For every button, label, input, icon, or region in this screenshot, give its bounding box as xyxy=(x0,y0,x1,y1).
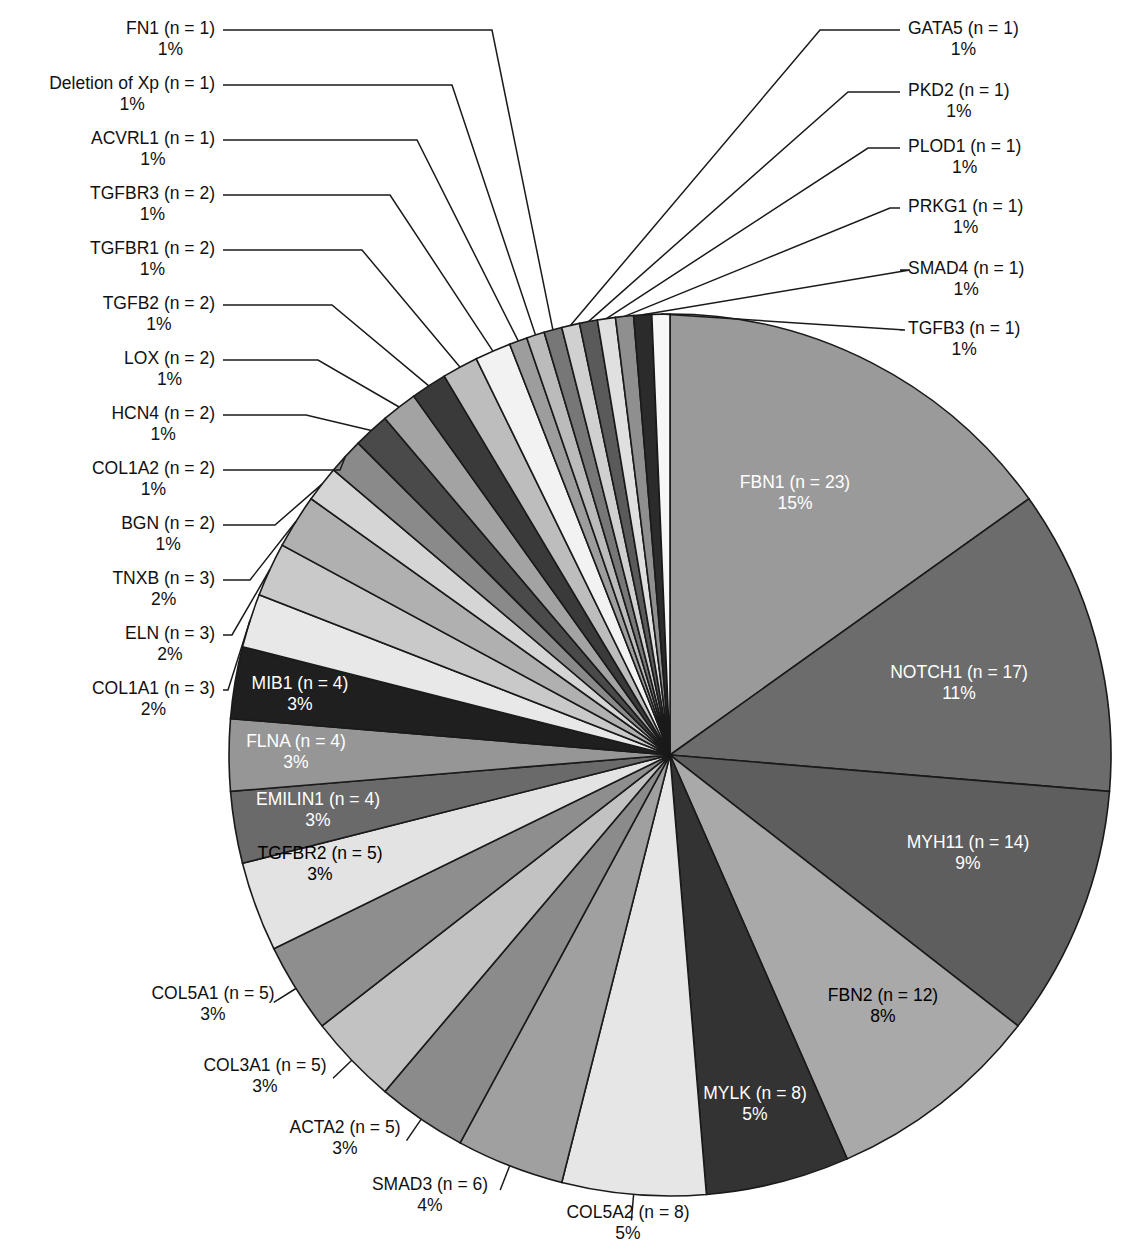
pie-label-name: EMILIN1 (n = 4) xyxy=(256,789,380,810)
pie-label-name: ACVRL1 (n = 1) xyxy=(91,128,215,149)
pie-label-name: Deletion of Xp (n = 1) xyxy=(49,73,215,94)
pie-label-name: ELN (n = 3) xyxy=(125,623,215,644)
pie-label-name: HCN4 (n = 2) xyxy=(111,403,215,424)
pie-outer-label: Deletion of Xp (n = 1)1% xyxy=(49,73,215,115)
pie-label-name: ACTA2 (n = 5) xyxy=(289,1117,400,1138)
pie-label-name: FBN1 (n = 23) xyxy=(740,472,850,493)
pie-label-percent: 1% xyxy=(90,204,215,225)
pie-label-name: GATA5 (n = 1) xyxy=(908,18,1019,39)
pie-label-name: COL3A1 (n = 5) xyxy=(203,1055,326,1076)
leader-line xyxy=(223,30,553,330)
pie-outer-label: PLOD1 (n = 1)1% xyxy=(908,136,1021,178)
pie-label-name: MIB1 (n = 4) xyxy=(252,673,349,694)
pie-outer-label: COL1A1 (n = 3)2% xyxy=(92,678,215,720)
pie-label-percent: 3% xyxy=(203,1076,326,1097)
pie-label-percent: 1% xyxy=(126,39,215,60)
pie-label-name: TNXB (n = 3) xyxy=(112,568,215,589)
pie-outer-label: TNXB (n = 3)2% xyxy=(112,568,215,610)
pie-label-name: PLOD1 (n = 1) xyxy=(908,136,1021,157)
pie-label-percent: 3% xyxy=(252,694,349,715)
pie-label-percent: 3% xyxy=(256,810,380,831)
pie-label-name: TGFBR3 (n = 2) xyxy=(90,183,215,204)
pie-inner-label: MYLK (n = 8)5% xyxy=(703,1083,807,1125)
pie-label-percent: 1% xyxy=(111,424,215,445)
pie-label-percent: 3% xyxy=(289,1138,400,1159)
pie-label-percent: 1% xyxy=(90,259,215,280)
pie-outer-label: HCN4 (n = 2)1% xyxy=(111,403,215,445)
leader-line xyxy=(223,140,518,341)
leader-line xyxy=(571,30,900,325)
pie-outer-label: COL5A2 (n = 8)5% xyxy=(566,1202,689,1244)
pie-label-percent: 2% xyxy=(125,644,215,665)
pie-label-name: COL1A2 (n = 2) xyxy=(92,458,215,479)
pie-label-percent: 1% xyxy=(908,279,1024,300)
pie-label-percent: 3% xyxy=(258,864,383,885)
leader-line xyxy=(500,1166,510,1190)
leader-line xyxy=(223,415,371,431)
pie-label-percent: 9% xyxy=(907,853,1030,874)
pie-label-name: FBN2 (n = 12) xyxy=(828,985,938,1006)
pie-outer-label: GATA5 (n = 1)1% xyxy=(908,18,1019,60)
pie-chart-figure: FN1 (n = 1)1%Deletion of Xp (n = 1)1%ACV… xyxy=(0,0,1124,1258)
pie-label-percent: 1% xyxy=(91,149,215,170)
pie-wedge-group xyxy=(229,314,1111,1196)
pie-label-name: TGFBR1 (n = 2) xyxy=(90,238,215,259)
pie-label-name: LOX (n = 2) xyxy=(124,348,215,369)
pie-label-percent: 5% xyxy=(566,1223,689,1244)
pie-outer-label: COL3A1 (n = 5)3% xyxy=(203,1055,326,1097)
pie-label-percent: 4% xyxy=(372,1195,488,1216)
pie-label-name: MYLK (n = 8) xyxy=(703,1083,807,1104)
pie-label-percent: 11% xyxy=(890,683,1028,704)
pie-outer-label: TGFB2 (n = 2)1% xyxy=(103,293,215,335)
leader-line xyxy=(223,195,493,351)
pie-label-name: MYH11 (n = 14) xyxy=(907,832,1030,853)
pie-outer-label: ELN (n = 3)2% xyxy=(125,623,215,665)
pie-outer-label: PKD2 (n = 1)1% xyxy=(908,80,1010,122)
pie-label-percent: 3% xyxy=(246,752,346,773)
pie-label-name: NOTCH1 (n = 17) xyxy=(890,662,1028,683)
pie-label-name: TGFBR2 (n = 5) xyxy=(258,843,383,864)
leader-line xyxy=(223,305,429,386)
pie-label-name: SMAD4 (n = 1) xyxy=(908,258,1024,279)
pie-outer-label: TGFB3 (n = 1)1% xyxy=(908,318,1020,360)
pie-label-percent: 1% xyxy=(908,39,1019,60)
pie-label-percent: 1% xyxy=(103,314,215,335)
pie-outer-label: TGFBR1 (n = 2)1% xyxy=(90,238,215,280)
pie-label-name: SMAD3 (n = 6) xyxy=(372,1174,488,1195)
pie-label-percent: 2% xyxy=(92,699,215,720)
leader-line xyxy=(223,360,399,407)
pie-label-name: COL5A1 (n = 5) xyxy=(151,983,274,1004)
pie-label-percent: 3% xyxy=(151,1004,274,1025)
pie-inner-label: EMILIN1 (n = 4)3% xyxy=(256,789,380,831)
leader-line xyxy=(625,208,901,316)
pie-label-name: COL5A2 (n = 8) xyxy=(566,1202,689,1223)
leader-line xyxy=(606,148,900,319)
pie-label-name: PRKG1 (n = 1) xyxy=(908,196,1023,217)
leader-line xyxy=(223,250,460,367)
pie-outer-label: SMAD4 (n = 1)1% xyxy=(908,258,1024,300)
pie-label-name: PKD2 (n = 1) xyxy=(908,80,1010,101)
pie-label-name: COL1A1 (n = 3) xyxy=(92,678,215,699)
pie-inner-label: NOTCH1 (n = 17)11% xyxy=(890,662,1028,704)
pie-outer-label: ACTA2 (n = 5)3% xyxy=(289,1117,400,1159)
pie-inner-label: MYH11 (n = 14)9% xyxy=(907,832,1030,874)
pie-outer-label: LOX (n = 2)1% xyxy=(124,348,215,390)
pie-inner-label: FLNA (n = 4)3% xyxy=(246,731,346,773)
leader-line xyxy=(274,989,296,1003)
leader-line xyxy=(588,92,900,322)
pie-label-percent: 1% xyxy=(908,339,1020,360)
pie-label-percent: 5% xyxy=(703,1104,807,1125)
pie-outer-label: ACVRL1 (n = 1)1% xyxy=(91,128,215,170)
pie-outer-label: COL1A2 (n = 2)1% xyxy=(92,458,215,500)
pie-label-percent: 2% xyxy=(112,589,215,610)
pie-outer-label: TGFBR3 (n = 2)1% xyxy=(90,183,215,225)
pie-inner-label: FBN1 (n = 23)15% xyxy=(740,472,850,514)
pie-inner-label: TGFBR2 (n = 5)3% xyxy=(258,843,383,885)
pie-label-percent: 15% xyxy=(740,493,850,514)
pie-inner-label: MIB1 (n = 4)3% xyxy=(252,673,349,715)
leader-line xyxy=(223,85,536,335)
pie-label-percent: 8% xyxy=(828,1006,938,1027)
leader-line xyxy=(223,456,346,470)
pie-label-name: FLNA (n = 4) xyxy=(246,731,346,752)
pie-label-percent: 1% xyxy=(124,369,215,390)
